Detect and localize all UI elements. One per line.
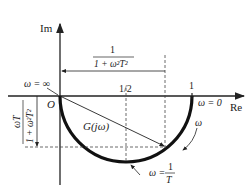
real-part-num: 1 — [110, 44, 115, 55]
nyquist-diagram: Im Re O 1/2 1 ω = ∞ ω = 0 G(jω) ω ω = 1 … — [0, 0, 252, 196]
omega-corner-pointer — [131, 165, 140, 175]
omega-infinity-pointer — [47, 88, 58, 95]
tick-one-label: 1 — [189, 80, 194, 91]
curve-label: G(jω) — [83, 120, 109, 133]
omega-zero-label: ω = 0 — [198, 97, 222, 108]
direction-omega-label: ω — [195, 117, 202, 128]
im-axis-label: Im — [40, 22, 53, 34]
imag-part-den: 1 + ω²T² — [25, 109, 35, 143]
imag-part-num: ωT — [11, 114, 22, 128]
re-axis-label: Re — [230, 101, 242, 113]
omega-infinity-label: ω = ∞ — [24, 78, 50, 89]
tick-half-label: 1/2 — [119, 83, 132, 94]
direction-arrow — [183, 128, 197, 150]
omega-corner-den: T — [166, 174, 173, 185]
origin-label: O — [47, 98, 55, 110]
real-part-den: 1 + ω²T² — [94, 59, 128, 69]
omega-corner-num: 1 — [168, 161, 173, 172]
omega-corner-prefix: ω = — [149, 167, 165, 178]
